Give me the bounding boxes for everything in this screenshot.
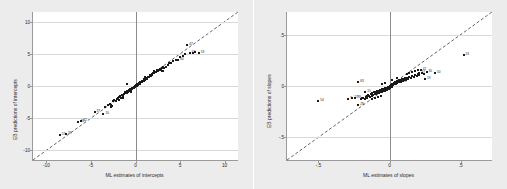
x-tick-mark-intercepts [136, 160, 137, 163]
data-point-intercepts [122, 97, 124, 99]
data-point-slopes [364, 91, 366, 93]
data-point-label-slopes: 50 [437, 71, 441, 74]
data-point-slopes [423, 73, 425, 75]
x-tick-label-intercepts: 0 [134, 163, 137, 168]
data-point-slopes [414, 70, 416, 72]
y-tick-mark-intercepts [30, 118, 33, 119]
data-point-label-intercepts: 10 [105, 112, 109, 115]
data-point-intercepts [165, 66, 167, 68]
data-point-slopes [391, 79, 393, 81]
x-tick-label-intercepts: 10 [222, 163, 227, 168]
data-point-slopes [410, 77, 412, 79]
data-point-label-slopes: 19 [427, 77, 431, 80]
y-tick-mark-slopes [284, 86, 287, 87]
data-point-slopes [413, 76, 415, 78]
data-point-slopes [426, 71, 428, 73]
data-point-slopes [418, 74, 420, 76]
x-tick-label-intercepts: 5 [179, 163, 182, 168]
x-tick-label-intercepts: -10 [43, 163, 50, 168]
y-axis-label-intercepts: EB predictions of intercepts [12, 79, 18, 140]
data-point-slopes [408, 72, 410, 74]
x-tick-label-slopes: 0 [388, 163, 391, 168]
y-tick-mark-intercepts [30, 150, 33, 151]
data-point-intercepts [111, 105, 113, 107]
panel-intercepts: -10-50510-10-5051057394062371060476153 M… [0, 0, 253, 189]
x-axis-label-intercepts: ML estimates of intercepts [32, 172, 237, 178]
data-point-intercepts [194, 51, 196, 53]
data-point-slopes [357, 104, 359, 106]
data-point-label-intercepts: 47 [189, 43, 193, 46]
data-point-intercepts [175, 59, 177, 61]
data-point-label-slopes: 53 [466, 53, 470, 56]
data-point-label-intercepts: 39 [68, 132, 72, 135]
data-point-label-slopes: 9 [350, 97, 352, 100]
data-point-label-intercepts: 62 [83, 119, 87, 122]
data-point-intercepts [177, 59, 179, 61]
y-tick-mark-slopes [284, 137, 287, 138]
x-tick-mark-intercepts [180, 160, 181, 163]
x-tick-mark-intercepts [91, 160, 92, 163]
data-point-slopes [463, 54, 465, 56]
data-point-intercepts [80, 120, 82, 122]
data-point-slopes [380, 95, 382, 97]
data-point-slopes [381, 83, 383, 85]
data-point-slopes [396, 77, 398, 79]
data-point-intercepts [94, 111, 96, 113]
data-point-intercepts [162, 70, 164, 72]
data-point-label-intercepts: 53 [201, 51, 205, 54]
data-point-intercepts [186, 44, 188, 46]
y-axis-label-slopes: EB predictions of slopes [266, 74, 272, 128]
panel-slopes: -.50.5-.50.55354635739128915134742305019… [254, 0, 507, 189]
y-tick-mark-intercepts [30, 54, 33, 55]
data-point-slopes [347, 98, 349, 100]
data-point-slopes [371, 98, 373, 100]
data-point-slopes [407, 78, 409, 80]
plot-area-slopes: -.50.5-.50.55354635739128915134742305019 [286, 12, 492, 161]
data-point-slopes [406, 73, 408, 75]
data-point-slopes [354, 97, 356, 99]
data-point-slopes [434, 72, 436, 74]
figure-root: -10-50510-10-5051057394062371060476153 M… [0, 0, 507, 189]
data-point-label-slopes: 54 [320, 99, 324, 102]
y-tick-mark-intercepts [30, 86, 33, 87]
data-point-label-slopes: 28 [360, 103, 364, 106]
data-point-intercepts [184, 53, 186, 55]
x-tick-mark-slopes [318, 160, 319, 163]
x-axis-label-slopes: ML estimates of slopes [286, 172, 491, 178]
x-tick-mark-intercepts [225, 160, 226, 163]
x-tick-label-intercepts: -5 [89, 163, 93, 168]
x-tick-mark-slopes [461, 160, 462, 163]
data-point-intercepts [170, 62, 172, 64]
data-point-intercepts [144, 76, 146, 78]
data-point-slopes [424, 78, 426, 80]
data-point-intercepts [59, 134, 61, 136]
data-point-slopes [411, 71, 413, 73]
data-point-slopes [357, 81, 359, 83]
data-point-intercepts [182, 55, 184, 57]
data-point-intercepts [65, 133, 67, 135]
data-point-slopes [384, 82, 386, 84]
data-point-slopes [364, 98, 366, 100]
data-point-intercepts [126, 83, 128, 85]
data-point-slopes [366, 97, 368, 99]
plot-area-intercepts: -10-50510-10-5051057394062371060476153 [32, 12, 238, 161]
data-point-slopes [417, 69, 419, 71]
y-tick-mark-intercepts [30, 22, 33, 23]
x-tick-label-slopes: -.5 [316, 163, 322, 168]
data-point-label-intercepts: 60 [180, 58, 184, 61]
y-tick-mark-slopes [284, 35, 287, 36]
data-point-intercepts [198, 52, 200, 54]
data-point-intercepts [153, 70, 155, 72]
data-point-intercepts [118, 99, 120, 101]
data-point-intercepts [130, 91, 132, 93]
data-point-label-slopes: 30 [429, 70, 433, 73]
data-point-label-slopes: 63 [360, 80, 364, 83]
data-point-slopes [420, 69, 422, 71]
data-point-slopes [377, 96, 379, 98]
y-tick-label-intercepts: -10 [23, 148, 30, 153]
data-point-intercepts [102, 113, 104, 115]
data-point-slopes [317, 100, 319, 102]
data-point-label-intercepts: 37 [97, 110, 101, 113]
data-point-slopes [374, 97, 376, 99]
x-tick-mark-intercepts [46, 160, 47, 163]
